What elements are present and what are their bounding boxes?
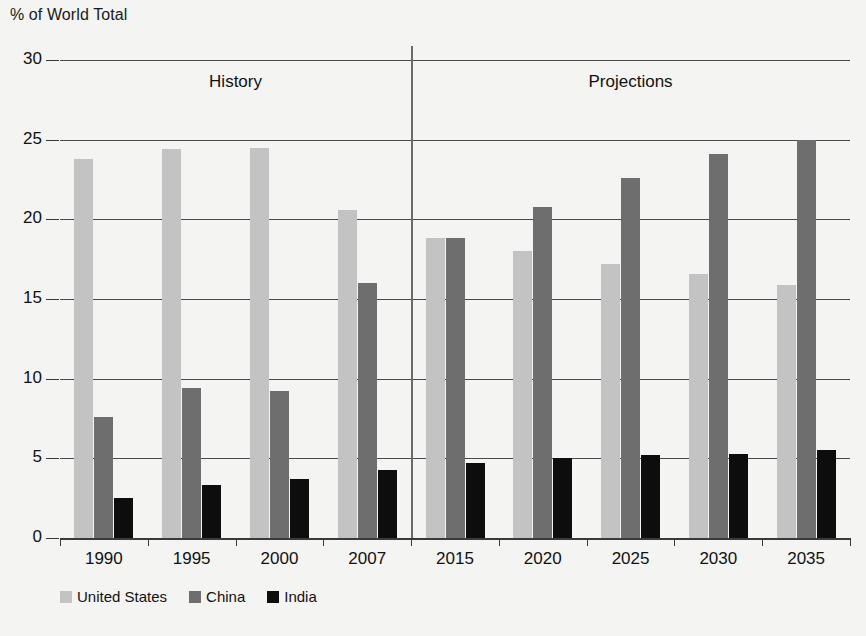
bar-united-states-1990 xyxy=(74,159,93,538)
bar-india-1995 xyxy=(202,485,221,538)
bar-china-2035 xyxy=(797,140,816,538)
legend-swatch-icon xyxy=(267,591,279,603)
y-axis-tick-label: 30 xyxy=(4,49,42,69)
bar-india-2035 xyxy=(817,450,836,538)
bar-china-1990 xyxy=(94,417,113,538)
x-axis-tick-label-2025: 2025 xyxy=(612,549,650,569)
legend-swatch-icon xyxy=(60,591,72,603)
bar-united-states-1995 xyxy=(162,149,181,538)
y-axis-tick xyxy=(46,140,59,141)
bar-india-1990 xyxy=(114,498,133,538)
x-axis-tick-label-2030: 2030 xyxy=(699,549,737,569)
bar-united-states-2020 xyxy=(513,251,532,538)
legend-item-united-states[interactable]: United States xyxy=(60,588,167,605)
y-axis-tick xyxy=(46,60,59,61)
x-axis-tick xyxy=(762,538,763,546)
bar-india-2000 xyxy=(290,479,309,538)
y-axis-tick-label: 5 xyxy=(4,447,42,467)
legend-label: United States xyxy=(77,588,167,605)
x-axis-tick xyxy=(587,538,588,546)
x-axis-tick-label-1990: 1990 xyxy=(85,549,123,569)
bar-united-states-2007 xyxy=(338,210,357,538)
bar-united-states-2035 xyxy=(777,285,796,538)
chart-legend: United StatesChinaIndia xyxy=(60,588,317,605)
legend-item-india[interactable]: India xyxy=(267,588,317,605)
y-axis-tick-label: 0 xyxy=(4,527,42,547)
bar-china-2000 xyxy=(270,391,289,538)
bar-china-2025 xyxy=(621,178,640,538)
x-axis-tick-label-2000: 2000 xyxy=(261,549,299,569)
history-projections-divider xyxy=(411,46,413,538)
x-axis-tick-label-1995: 1995 xyxy=(173,549,211,569)
legend-label: India xyxy=(284,588,317,605)
plot-area xyxy=(60,60,850,538)
legend-item-china[interactable]: China xyxy=(189,588,245,605)
y-axis-tick xyxy=(46,458,59,459)
bar-united-states-2015 xyxy=(426,238,445,538)
y-axis-tick-label: 15 xyxy=(4,288,42,308)
x-axis-tick xyxy=(850,538,851,546)
legend-swatch-icon xyxy=(189,591,201,603)
chart-figure: % of World Total 051015202530 1990199520… xyxy=(0,0,866,636)
x-axis-tick xyxy=(674,538,675,546)
x-axis-tick-label-2007: 2007 xyxy=(348,549,386,569)
x-axis-tick xyxy=(411,538,412,546)
bar-india-2030 xyxy=(729,454,748,538)
y-axis-tick xyxy=(46,219,59,220)
bar-china-1995 xyxy=(182,388,201,538)
bar-china-2030 xyxy=(709,154,728,538)
x-axis-tick-label-2035: 2035 xyxy=(787,549,825,569)
bar-india-2007 xyxy=(378,470,397,539)
x-axis-tick xyxy=(148,538,149,546)
y-axis-tick-label: 25 xyxy=(4,129,42,149)
y-axis-tick-label: 20 xyxy=(4,208,42,228)
x-axis-tick xyxy=(499,538,500,546)
bar-china-2007 xyxy=(358,283,377,538)
x-axis-tick xyxy=(323,538,324,546)
bar-united-states-2025 xyxy=(601,264,620,538)
bar-china-2015 xyxy=(446,238,465,538)
x-axis-line xyxy=(60,538,850,540)
x-axis-tick xyxy=(236,538,237,546)
history-caption: History xyxy=(209,72,262,92)
bar-india-2015 xyxy=(466,463,485,538)
x-axis-tick-label-2020: 2020 xyxy=(524,549,562,569)
bar-india-2025 xyxy=(641,455,660,538)
bar-united-states-2030 xyxy=(689,274,708,538)
y-axis-title: % of World Total xyxy=(10,6,128,24)
y-axis-tick xyxy=(46,538,59,539)
x-axis-tick-label-2015: 2015 xyxy=(436,549,474,569)
y-axis-tick-label: 10 xyxy=(4,368,42,388)
y-axis-tick xyxy=(46,379,59,380)
x-axis-tick xyxy=(60,538,61,546)
bar-india-2020 xyxy=(553,458,572,538)
y-axis-tick xyxy=(46,299,59,300)
legend-label: China xyxy=(206,588,245,605)
bar-china-2020 xyxy=(533,207,552,538)
projections-caption: Projections xyxy=(588,72,672,92)
bar-united-states-2000 xyxy=(250,148,269,538)
